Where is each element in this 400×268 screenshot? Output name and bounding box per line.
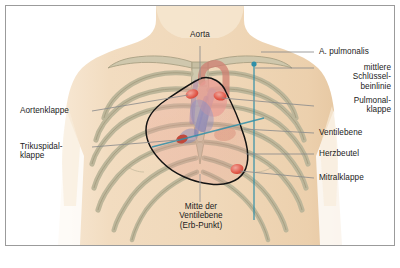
label-a-pulmonalis: A. pulmonalis bbox=[319, 47, 391, 56]
label-aortenklappe: Aortenklappe bbox=[20, 106, 102, 115]
figure-page: Aorta A. pulmonalis mittlere Schlüssel- … bbox=[0, 0, 400, 268]
label-ventilebene: Ventilebene bbox=[319, 128, 395, 137]
label-herzbeutel: Herzbeutel bbox=[319, 149, 395, 158]
label-aorta: Aorta bbox=[172, 30, 228, 39]
label-mitte-der-ventilebene: Mitte der Ventilebene (Erb-Punkt) bbox=[166, 202, 236, 230]
figure-frame: Aorta A. pulmonalis mittlere Schlüssel- … bbox=[5, 5, 395, 246]
midclavicular-line-dot bbox=[251, 61, 256, 66]
label-pulmonalklappe: Pulmonal- klappe bbox=[309, 96, 391, 115]
label-trikuspidalklappe: Trikuspidal- klappe bbox=[20, 142, 102, 161]
label-mittlere-schluesselbeinlinie: mittlere Schlüssel- beinlinie bbox=[309, 63, 391, 91]
label-mitralklappe: Mitralklappe bbox=[319, 173, 395, 182]
